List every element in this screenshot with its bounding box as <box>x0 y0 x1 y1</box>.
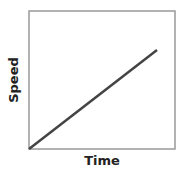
y-axis-label: Speed <box>6 57 21 103</box>
x-axis-label: Time <box>0 153 186 168</box>
plot-frame <box>29 11 175 149</box>
